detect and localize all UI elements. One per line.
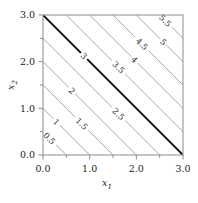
plot-canvas: 0.511.522.533.544.555.5 0.01.02.03.0 0.0…	[0, 0, 198, 203]
x-tick-label: 2.0	[129, 163, 144, 174]
contour-plot-figure: 0.511.522.533.544.555.5 0.01.02.03.0 0.0…	[0, 0, 198, 203]
y-axis-title-subscript: 2	[11, 80, 19, 86]
y-tick-label: 2.0	[20, 56, 35, 67]
y-tick-label: 1.0	[20, 103, 35, 114]
footer-caption	[0, 193, 198, 203]
x-axis-title-subscript: 1	[107, 183, 111, 191]
x-tick-labels-group: 0.01.02.03.0	[35, 163, 190, 174]
y-tick-label: 3.0	[20, 9, 35, 20]
svg-text:x1: x1	[102, 177, 112, 191]
x-tick-label: 0.0	[35, 163, 50, 174]
x-tick-label: 3.0	[175, 163, 190, 174]
y-tick-labels-group: 0.01.02.03.0	[20, 9, 35, 160]
y-axis-title: x2	[5, 80, 19, 90]
y-tick-label: 0.0	[20, 149, 35, 160]
x-axis-title: x1	[102, 177, 112, 191]
svg-text:x2: x2	[5, 80, 19, 90]
x-tick-label: 1.0	[82, 163, 97, 174]
